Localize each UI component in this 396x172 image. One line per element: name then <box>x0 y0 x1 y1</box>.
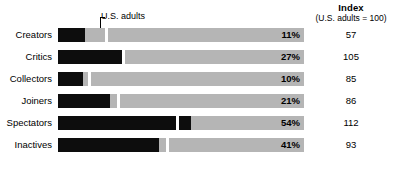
percent-value: 11% <box>282 28 301 42</box>
us-adults-marker <box>166 138 169 152</box>
bar-track: 21% <box>58 94 304 108</box>
percent-value: 54% <box>281 116 300 130</box>
row-label-joiners: Joiners <box>0 94 52 108</box>
row-label-creators: Creators <box>0 28 52 42</box>
index-column-header: Index (U.S. adults = 100) <box>306 2 396 24</box>
table-row: Spectators54%112 <box>0 116 396 130</box>
index-value: 85 <box>306 72 396 86</box>
percent-value: 27% <box>281 50 300 64</box>
index-value: 86 <box>306 94 396 108</box>
percent-value: 10% <box>281 72 300 86</box>
index-value: 105 <box>306 50 396 64</box>
segmented-bar-chart: Index (U.S. adults = 100) U.S. adults Cr… <box>0 0 396 172</box>
index-value: 93 <box>306 138 396 152</box>
percent-value: 41% <box>281 138 300 152</box>
row-label-inactives: Inactives <box>0 138 52 152</box>
row-label-critics: Critics <box>0 50 52 64</box>
table-row: Collectors10%85 <box>0 72 396 86</box>
bar-fill <box>58 72 83 86</box>
us-adults-marker <box>105 28 108 42</box>
bar-track: 41% <box>58 138 304 152</box>
us-adults-annotation-label: U.S. adults <box>101 11 145 21</box>
row-label-spectators: Spectators <box>0 116 52 130</box>
table-row: Critics27%105 <box>0 50 396 64</box>
table-row: Creators11%57 <box>0 28 396 42</box>
us-adults-marker <box>176 116 179 130</box>
index-value: 57 <box>306 28 396 42</box>
index-header-subtitle: (U.S. adults = 100) <box>306 13 396 24</box>
us-adults-marker <box>117 94 120 108</box>
bar-track: 10% <box>58 72 304 86</box>
bar-fill <box>58 116 191 130</box>
index-value: 112 <box>306 116 396 130</box>
percent-value: 21% <box>281 94 300 108</box>
bar-fill <box>58 50 124 64</box>
us-adults-marker <box>88 72 91 86</box>
us-adults-marker <box>122 50 125 64</box>
table-row: Joiners21%86 <box>0 94 396 108</box>
us-adults-leader-line <box>100 17 101 28</box>
table-row: Inactives41%93 <box>0 138 396 152</box>
row-label-collectors: Collectors <box>0 72 52 86</box>
us-adults-leader-tick <box>100 17 105 18</box>
bar-track: 27% <box>58 50 304 64</box>
bar-fill <box>58 28 85 42</box>
bar-track: 11% <box>58 28 304 42</box>
bar-fill <box>58 94 110 108</box>
index-header-title: Index <box>306 2 396 13</box>
bar-track: 54% <box>58 116 304 130</box>
bar-fill <box>58 138 159 152</box>
